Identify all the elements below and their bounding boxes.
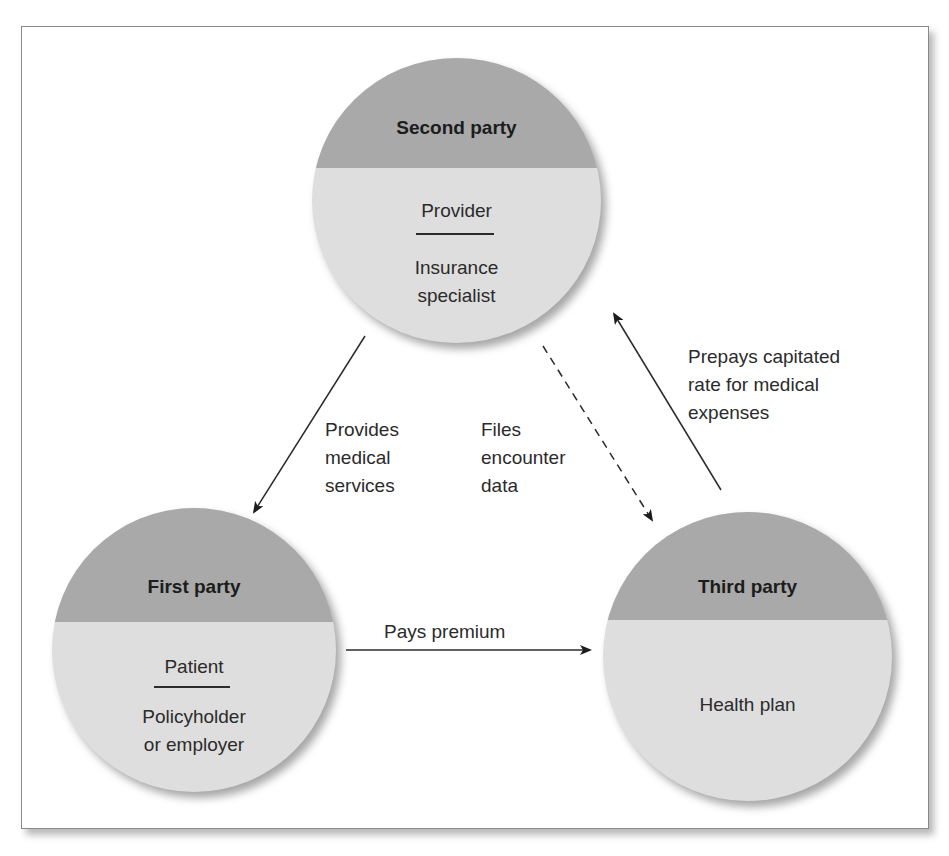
label-files-encounter-data: Files encounter data xyxy=(481,416,566,500)
node-title: Second party xyxy=(312,117,601,139)
node-description: Insurance specialist xyxy=(312,254,601,310)
node-third-party: Third party Health plan xyxy=(603,512,892,801)
node-description: Health plan xyxy=(603,691,892,719)
node-title: First party xyxy=(52,576,336,598)
node-second-party: Second party Provider Insurance speciali… xyxy=(312,58,601,343)
node-header xyxy=(312,58,601,168)
node-role: Provider xyxy=(312,200,601,222)
divider xyxy=(154,686,230,688)
label-provides-medical-services: Provides medical services xyxy=(325,416,399,500)
node-title: Third party xyxy=(603,576,892,598)
node-role: Patient xyxy=(52,656,336,678)
node-header xyxy=(52,508,336,622)
divider xyxy=(416,233,494,235)
node-header xyxy=(603,512,892,620)
label-prepays-capitated-rate: Prepays capitated rate for medical expen… xyxy=(688,343,840,427)
node-description: Policyholder or employer xyxy=(52,703,336,759)
node-first-party: First party Patient Policyholder or empl… xyxy=(52,508,336,792)
label-pays-premium: Pays premium xyxy=(384,618,505,646)
